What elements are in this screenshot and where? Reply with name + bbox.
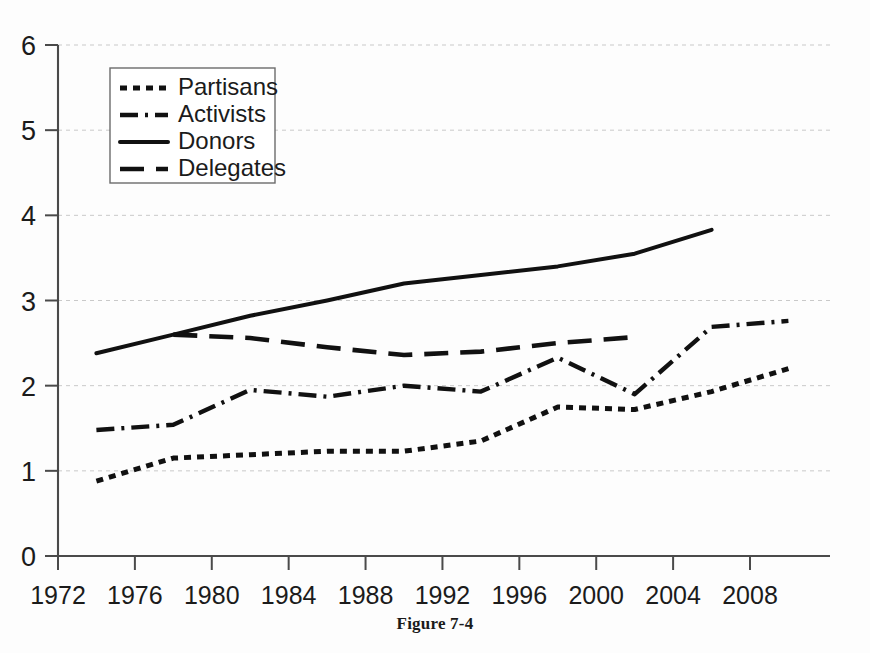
legend-label-partisans: Partisans	[178, 73, 278, 100]
series-line-delegates	[173, 335, 634, 355]
series-lines	[96, 230, 788, 481]
line-chart: 0123456 19721976198019841988199219962000…	[0, 0, 870, 653]
x-tick-label: 2008	[722, 581, 778, 609]
x-tick-label: 1972	[30, 581, 86, 609]
x-tick-label: 1996	[492, 581, 548, 609]
x-tick-label: 1980	[184, 581, 240, 609]
x-tick-label: 1984	[261, 581, 317, 609]
x-tick-label: 2000	[568, 581, 624, 609]
x-tick-label: 1992	[415, 581, 471, 609]
x-tick-label: 2004	[645, 581, 701, 609]
figure-container: 0123456 19721976198019841988199219962000…	[0, 0, 870, 653]
series-line-activists	[96, 321, 788, 430]
legend-label-delegates: Delegates	[178, 154, 286, 181]
y-tick-label: 3	[21, 287, 36, 317]
y-axis: 0123456	[21, 31, 58, 572]
x-tick-label: 1976	[107, 581, 163, 609]
y-tick-label: 0	[21, 542, 36, 572]
chart-legend: PartisansActivistsDonorsDelegates	[110, 68, 286, 183]
x-tick-label: 1988	[338, 581, 394, 609]
y-tick-label: 6	[21, 31, 36, 61]
y-tick-label: 5	[21, 116, 36, 146]
legend-label-donors: Donors	[178, 127, 255, 154]
y-tick-label: 2	[21, 372, 36, 402]
x-axis: 1972197619801984198819921996200020042008	[30, 556, 830, 609]
figure-caption: Figure 7-4	[0, 614, 870, 634]
y-tick-label: 1	[21, 457, 36, 487]
legend-label-activists: Activists	[178, 100, 266, 127]
y-tick-label: 4	[21, 201, 36, 231]
